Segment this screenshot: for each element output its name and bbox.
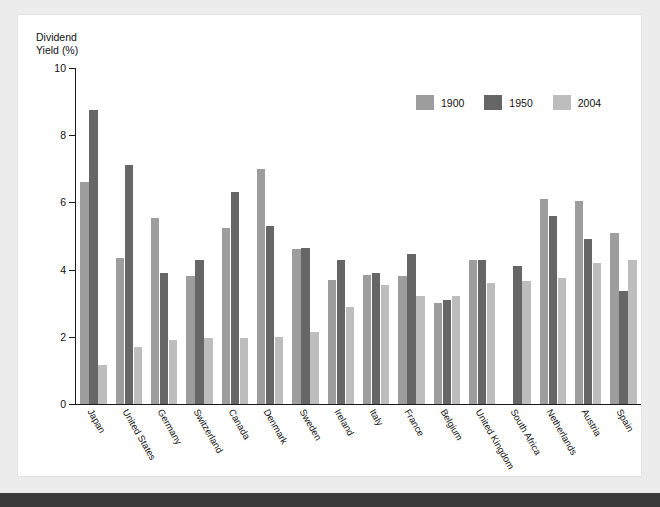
chart-panel: Dividend Yield (%) 190019502004 0246810 … (17, 14, 642, 477)
bar-france-1900 (398, 276, 406, 404)
bars-layer (76, 68, 641, 404)
bar-germany-2004 (169, 340, 177, 404)
bar-switzerland-1950 (195, 260, 203, 404)
bar-japan-2004 (98, 365, 106, 404)
x-axis-label-spain: Spain (615, 407, 637, 434)
x-axis-line (75, 404, 641, 405)
bottom-strip (0, 493, 660, 507)
bar-belgium-1950 (443, 300, 451, 404)
bar-sweden-1900 (292, 249, 300, 404)
x-axis-label-south-africa: South Africa (509, 407, 544, 457)
y-tick-4 (69, 270, 75, 271)
y-tick-6 (69, 202, 75, 203)
bar-south-africa-1950 (513, 266, 521, 404)
x-axis-label-sweden: Sweden (297, 407, 324, 442)
bar-canada-2004 (240, 338, 248, 404)
bar-canada-1950 (231, 192, 239, 404)
bar-south-africa-2004 (522, 281, 530, 404)
x-axis-label-belgium: Belgium (438, 407, 465, 442)
x-axis-labels: JapanUnited StatesGermanySwitzerlandCana… (76, 407, 642, 507)
bar-group-ireland (323, 68, 358, 404)
bar-spain-1900 (610, 233, 618, 404)
bar-group-belgium (429, 68, 464, 404)
bar-canada-1900 (222, 228, 230, 404)
y-axis-title: Dividend Yield (%) (36, 31, 78, 57)
bar-ireland-2004 (346, 307, 354, 404)
bar-group-france (394, 68, 429, 404)
bar-italy-2004 (381, 285, 389, 404)
bar-ireland-1900 (328, 280, 336, 404)
bar-united-kingdom-1900 (469, 260, 477, 404)
bar-group-japan (76, 68, 111, 404)
bar-switzerland-1900 (186, 276, 194, 404)
bar-france-1950 (407, 254, 415, 404)
y-tick-0 (69, 404, 75, 405)
bar-japan-1950 (89, 110, 97, 404)
bar-denmark-1900 (257, 169, 265, 404)
x-axis-label-japan: Japan (85, 407, 107, 435)
x-axis-label-united-states: United States (120, 407, 158, 462)
y-tick-10 (69, 68, 75, 69)
x-axis-label-denmark: Denmark (262, 407, 291, 446)
x-axis-label-austria: Austria (580, 407, 604, 438)
bar-spain-2004 (628, 260, 636, 404)
bar-group-south-africa (500, 68, 535, 404)
x-axis-label-france: France (403, 407, 427, 438)
plot-area: 0246810 (75, 68, 641, 404)
x-axis-label-canada: Canada (226, 407, 252, 441)
x-axis-label-switzerland: Switzerland (191, 407, 225, 455)
bar-group-canada (217, 68, 252, 404)
bar-united-states-2004 (134, 347, 142, 404)
bar-italy-1950 (372, 273, 380, 404)
bar-austria-1950 (584, 239, 592, 404)
bar-ireland-1950 (337, 260, 345, 404)
bar-group-italy (359, 68, 394, 404)
y-axis-label-0: 0 (60, 398, 66, 410)
page-background: Dividend Yield (%) 190019502004 0246810 … (0, 0, 660, 507)
bar-group-germany (147, 68, 182, 404)
x-axis-label-italy: Italy (368, 407, 386, 428)
bar-switzerland-2004 (204, 338, 212, 404)
bar-italy-1900 (363, 275, 371, 404)
bar-netherlands-1900 (540, 199, 548, 404)
bar-denmark-2004 (275, 337, 283, 404)
bar-sweden-1950 (301, 248, 309, 404)
bar-austria-2004 (593, 263, 601, 404)
bar-germany-1950 (160, 273, 168, 404)
y-axis-label-2: 2 (60, 331, 66, 343)
bar-group-united-kingdom (464, 68, 499, 404)
bar-sweden-2004 (310, 332, 318, 404)
bar-spain-1950 (619, 291, 627, 404)
bar-austria-1900 (575, 201, 583, 404)
bar-group-sweden (288, 68, 323, 404)
y-axis-label-6: 6 (60, 196, 66, 208)
bar-group-denmark (253, 68, 288, 404)
bar-france-2004 (416, 296, 424, 404)
bar-netherlands-1950 (549, 216, 557, 404)
bar-japan-1900 (80, 182, 88, 404)
bar-denmark-1950 (266, 226, 274, 404)
x-axis-label-ireland: Ireland (332, 407, 356, 438)
bar-group-united-states (111, 68, 146, 404)
bar-belgium-2004 (452, 296, 460, 404)
bar-netherlands-2004 (558, 278, 566, 404)
y-axis-label-10: 10 (54, 62, 66, 74)
y-axis-label-8: 8 (60, 129, 66, 141)
bar-belgium-1900 (434, 303, 442, 404)
bar-group-netherlands (535, 68, 570, 404)
bar-group-austria (570, 68, 605, 404)
bar-united-states-1900 (116, 258, 124, 404)
bar-germany-1900 (151, 218, 159, 404)
y-axis-label-4: 4 (60, 264, 66, 276)
y-tick-8 (69, 135, 75, 136)
bar-united-states-1950 (125, 165, 133, 404)
bar-group-spain (606, 68, 641, 404)
x-axis-label-germany: Germany (156, 407, 185, 446)
bar-united-kingdom-2004 (487, 283, 495, 404)
bar-group-switzerland (182, 68, 217, 404)
y-tick-2 (69, 337, 75, 338)
bar-united-kingdom-1950 (478, 260, 486, 404)
x-axis-label-netherlands: Netherlands (544, 407, 579, 457)
